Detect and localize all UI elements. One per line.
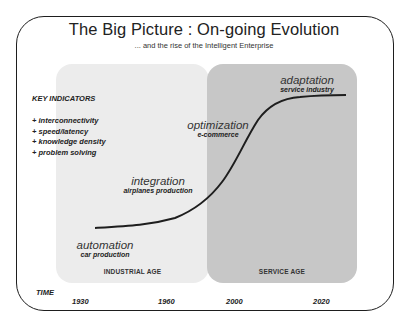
time-tick: 1930 <box>72 297 89 306</box>
stage-optimization: optimization e-commerce <box>178 120 258 139</box>
stage-name: adaptation <box>262 75 352 86</box>
stage-name: optimization <box>178 120 258 131</box>
stage-name: automation <box>60 240 150 251</box>
stage-example: e-commerce <box>178 131 258 139</box>
time-tick: 2000 <box>226 297 243 306</box>
stage-automation: automation car production <box>60 240 150 259</box>
stage-example: service industry <box>262 86 352 94</box>
time-axis-label: TIME <box>36 288 54 297</box>
evolution-curve <box>0 0 408 328</box>
time-tick: 1960 <box>158 297 175 306</box>
time-tick: 2020 <box>313 297 330 306</box>
stage-name: integration <box>108 176 208 187</box>
stage-adaptation: adaptation service industry <box>262 75 352 94</box>
stage-example: airplanes production <box>108 187 208 195</box>
stage-example: car production <box>60 251 150 259</box>
stage-integration: integration airplanes production <box>108 176 208 195</box>
